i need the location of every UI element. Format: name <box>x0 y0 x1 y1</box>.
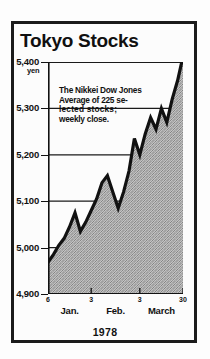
y-axis-tick-label: 5,200 <box>6 149 48 160</box>
y-tick-dash <box>41 201 48 202</box>
x-axis-month-label: Feb. <box>91 305 141 316</box>
chart-annotation: The Nikkei Dow Jones Average of 225 se- … <box>59 86 155 124</box>
y-axis-tick-label: 5,100 <box>6 195 48 206</box>
x-axis-month-label: Jan. <box>45 305 95 316</box>
x-axis-tick-number: 3 <box>130 296 150 303</box>
y-tick-text: 5,300 <box>16 102 39 113</box>
y-tick-dash <box>41 294 48 295</box>
x-axis-tick-number: 30 <box>173 296 193 303</box>
x-axis-month-label: March <box>136 305 186 316</box>
y-tick-dash <box>41 62 48 63</box>
y-axis-tick-label: 5,300 <box>6 102 48 113</box>
y-tick-dash <box>41 108 48 109</box>
annotation-line-4: weekly close. <box>59 115 155 125</box>
x-axis-tick-number: 3 <box>81 296 101 303</box>
y-tick-text: 5,100 <box>16 195 39 206</box>
page-title: Tokyo Stocks <box>20 30 139 52</box>
y-tick-dash <box>41 248 48 249</box>
y-axis-unit-label: yen <box>27 66 39 75</box>
chart-figure: Tokyo Stocks 4,9005,0005,1005,2005,3005,… <box>0 0 210 359</box>
y-tick-dash <box>41 155 48 156</box>
x-axis-year-label: 1978 <box>0 326 210 338</box>
y-tick-text: 5,000 <box>16 242 39 253</box>
y-tick-text: 5,200 <box>16 149 39 160</box>
y-tick-text: 4,900 <box>16 288 39 299</box>
y-axis-tick-label: 5,000 <box>6 242 48 253</box>
x-axis-tick-number: 6 <box>38 296 58 303</box>
